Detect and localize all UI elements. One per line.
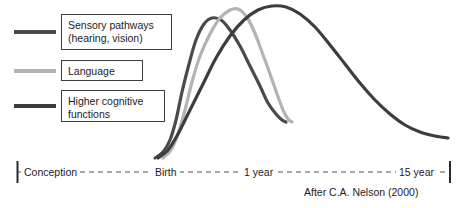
legend-swatch-language bbox=[14, 69, 56, 73]
axis-label-birth: Birth bbox=[152, 166, 180, 178]
legend-label-language: Language bbox=[61, 60, 143, 81]
legend-label-higher-cognitive-functions: Higher cognitive functions bbox=[61, 90, 165, 122]
curves-group bbox=[155, 6, 448, 158]
axis-label-fifteen-year: 15 year bbox=[396, 166, 437, 178]
brain-development-figure: Sensory pathways (hearing, vision) Langu… bbox=[0, 0, 474, 208]
legend-swatch-sensory bbox=[14, 30, 56, 34]
axis-label-one-year: 1 year bbox=[241, 166, 276, 178]
curve-series-1 bbox=[163, 8, 292, 158]
legend-label-sensory-pathways: Sensory pathways (hearing, vision) bbox=[61, 14, 172, 50]
legend-swatch-higher-cognitive bbox=[14, 104, 56, 108]
axis-label-conception: Conception bbox=[21, 166, 80, 178]
legend-item-language[interactable]: Language bbox=[14, 60, 143, 81]
attribution-text: After C.A. Nelson (2000) bbox=[304, 186, 418, 198]
legend-item-higher-cognitive-functions[interactable]: Higher cognitive functions bbox=[14, 90, 165, 122]
axis-group bbox=[17, 161, 450, 183]
legend-item-sensory-pathways[interactable]: Sensory pathways (hearing, vision) bbox=[14, 14, 172, 50]
